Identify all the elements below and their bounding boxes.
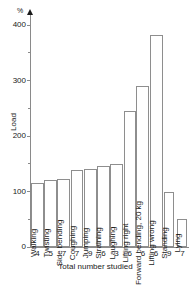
x-sample-size-label: 5 [44, 249, 57, 259]
bar-slot: Lifting wrong [150, 14, 163, 247]
bar-slot: Standing [163, 14, 176, 247]
y-tick-label-300: 300 [0, 77, 26, 85]
bar-slot: Jumping [84, 14, 97, 247]
bar-series: WalkingTwistingSide bendingCoughingJumpi… [31, 14, 189, 247]
bar-slot: Side bending [57, 14, 70, 247]
bar-slot: Twisting [44, 14, 57, 247]
x-sample-size-label: 9 [84, 249, 97, 259]
x-sample-size-label: 6 [136, 249, 149, 259]
bar-slot: Lying [176, 14, 189, 247]
x-axis-sample-sizes: 457796366697 [31, 249, 189, 261]
bar-lifting-wrong[interactable]: Lifting wrong [150, 35, 163, 247]
y-tick-label-0: 0 [0, 243, 26, 251]
x-sample-size-label: 6 [97, 249, 110, 259]
x-sample-size-label: 3 [110, 249, 123, 259]
y-axis-unit-label: % [17, 7, 23, 14]
y-tick-label-100: 100 [0, 188, 26, 196]
x-sample-size-label: 6 [123, 249, 136, 259]
x-axis-title: Total number studied [0, 262, 191, 271]
bar-slot: Straining [97, 14, 110, 247]
bar-slot: Laughing [110, 14, 123, 247]
x-sample-size-label: 7 [71, 249, 84, 259]
bar-slot: Forward bending, 20 kg [136, 14, 149, 247]
x-sample-size-label: 6 [150, 249, 163, 259]
bar-category-label: Forward bending, 20 kg [135, 201, 143, 285]
x-sample-size-label: 9 [163, 249, 176, 259]
y-tick-label-200: 200 [0, 132, 26, 140]
x-sample-size-label: 4 [31, 249, 44, 259]
y-axis-title: Load [10, 92, 18, 152]
bar-slot: Coughing [71, 14, 84, 247]
x-sample-size-label: 7 [176, 249, 189, 259]
y-tick-label-400: 400 [0, 21, 26, 29]
x-sample-size-label: 7 [57, 249, 70, 259]
bar-slot: Walking [31, 14, 44, 247]
bar-lying[interactable]: Lying [177, 219, 187, 247]
